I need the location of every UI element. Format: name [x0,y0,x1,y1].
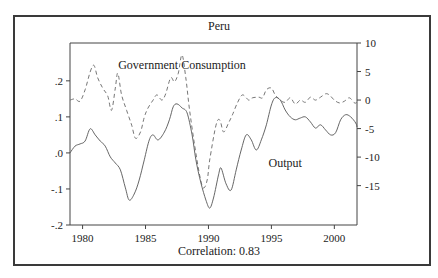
left-axis-tick-label: -.2 [51,219,63,231]
right-axis-tick-label: 10 [365,37,377,49]
right-axis-tick-label: 0 [365,94,371,106]
right-axis-tick-label: -15 [365,180,380,192]
government-consumption-line [70,55,357,188]
output-label: Output [269,156,303,170]
right-axis-tick-label: -10 [365,151,380,163]
left-axis-tick-label: .2 [55,75,63,87]
left-axis-tick-label: .0 [55,147,64,159]
left-axis-tick-label: -.1 [51,183,63,195]
series-lines [70,55,357,208]
x-axis-tick-label: 2000 [323,232,346,244]
x-axis-tick-label: 1980 [72,232,95,244]
output-line [70,97,357,208]
left-axis-tick-label: .1 [55,111,63,123]
x-axis-tick-label: 1985 [135,232,158,244]
x-axis-tick-label: 1995 [260,232,283,244]
government-consumption-label: Government Consumption [118,58,246,72]
x-axis-tick-label: 1990 [197,232,220,244]
right-axis-tick-label: 5 [365,66,371,78]
line-chart: .2.1.0-.1-.21050-5-10-151980198519901995… [0,0,438,278]
right-axis-tick-label: -5 [365,123,375,135]
